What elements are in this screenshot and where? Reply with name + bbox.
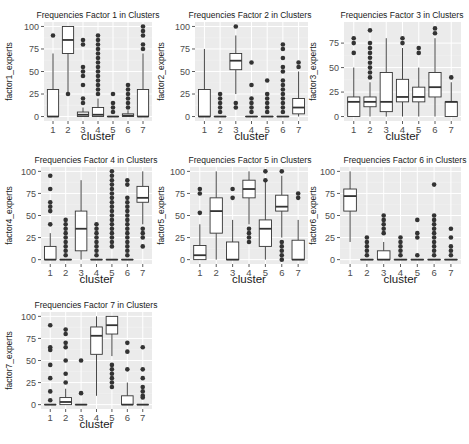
outlier-point: [63, 231, 68, 236]
boxplot-panel-factor-7: 02550751001234567Frequencies Factor 7 in…: [4, 300, 157, 430]
outlier-point: [198, 211, 203, 216]
y-tick-label: 25: [26, 233, 36, 243]
outlier-point: [110, 191, 115, 196]
outlier-point: [263, 169, 268, 174]
outlier-point: [368, 75, 373, 80]
iqr-box: [348, 97, 360, 117]
outlier-point: [141, 33, 146, 38]
outlier-point: [432, 231, 437, 236]
y-tick-label: 75: [26, 334, 36, 344]
y-tick-label: 50: [26, 211, 36, 221]
outlier-point: [110, 385, 115, 390]
outlier-point: [125, 341, 130, 346]
outlier-point: [400, 36, 405, 41]
outlier-point: [96, 92, 101, 97]
outlier-point: [281, 47, 286, 52]
outlier-point: [110, 196, 115, 201]
x-tick-label: 6: [432, 124, 437, 135]
iqr-box: [91, 327, 103, 354]
outlier-point: [398, 240, 403, 245]
outlier-point: [96, 47, 101, 52]
chart-title: Frequencies Factor 5 in Clusters: [189, 155, 312, 165]
outlier-point: [63, 253, 68, 258]
outlier-point: [96, 51, 101, 56]
outlier-point: [126, 101, 131, 106]
outlier-point: [110, 200, 115, 205]
x-axis-title: cluster: [386, 130, 420, 142]
outlier-point: [96, 87, 101, 92]
x-tick-label: 7: [448, 267, 453, 278]
outlier-point: [48, 398, 53, 403]
outlier-point: [140, 376, 145, 381]
outlier-point: [449, 226, 454, 231]
outlier-point: [398, 249, 403, 254]
outlier-point: [111, 110, 116, 115]
outlier-point: [368, 70, 373, 75]
y-tick-label: 100: [24, 22, 39, 32]
outlier-point: [433, 31, 438, 36]
outlier-point: [48, 209, 53, 214]
outlier-point: [265, 110, 270, 115]
outlier-point: [141, 29, 146, 34]
outlier-point: [351, 36, 356, 41]
outlier-point: [48, 222, 53, 227]
outlier-point: [449, 249, 454, 254]
iqr-box: [226, 242, 238, 260]
outlier-point: [368, 46, 373, 51]
outlier-point: [96, 78, 101, 83]
iqr-box: [377, 251, 390, 260]
boxplot-panel-factor-1: 02550751001234567Frequencies Factor 1 in…: [4, 10, 159, 142]
y-tick-label: 50: [175, 211, 185, 221]
outlier-point: [249, 83, 254, 88]
y-tick-label: 50: [26, 356, 36, 366]
outlier-point: [96, 33, 101, 38]
outlier-point: [96, 65, 101, 70]
outlier-point: [66, 92, 71, 97]
outlier-point: [368, 65, 373, 70]
x-tick-label: 2: [65, 124, 70, 135]
outlier-point: [63, 371, 68, 376]
outlier-point: [110, 231, 115, 236]
outlier-point: [415, 231, 420, 236]
y-tick-label: 100: [170, 167, 185, 177]
outlier-point: [381, 222, 386, 227]
outlier-point: [110, 240, 115, 245]
x-tick-label: 1: [351, 124, 356, 135]
figure: 02550751001234567Frequencies Factor 1 in…: [0, 0, 469, 444]
outlier-point: [368, 28, 373, 33]
iqr-box: [429, 72, 441, 96]
outlier-point: [63, 358, 68, 363]
outlier-point: [126, 92, 131, 97]
x-tick-label: 7: [296, 124, 301, 135]
outlier-point: [415, 218, 420, 223]
outlier-point: [110, 371, 115, 376]
outlier-point: [398, 244, 403, 249]
x-tick-label: 1: [48, 412, 53, 423]
outlier-point: [110, 380, 115, 385]
y-tick-label: 0: [34, 112, 39, 122]
outlier-point: [63, 332, 68, 337]
y-axis-title: factor7_experts: [4, 331, 14, 390]
x-axis-title: cluster: [235, 130, 269, 142]
outlier-point: [110, 226, 115, 231]
chart-title: Frequencies Factor 3 in Clusters: [341, 10, 464, 20]
x-tick-label: 6: [279, 267, 284, 278]
outlier-point: [140, 244, 145, 249]
y-tick-label: 0: [31, 255, 36, 265]
outlier-point: [81, 42, 86, 47]
outlier-point: [416, 51, 421, 56]
chart-title: Frequencies Factor 6 in Clusters: [344, 155, 467, 165]
outlier-point: [415, 253, 420, 258]
outlier-point: [398, 235, 403, 240]
outlier-point: [281, 101, 286, 106]
outlier-point: [94, 226, 99, 231]
y-tick-label: 25: [29, 89, 39, 99]
x-tick-label: 6: [125, 124, 130, 135]
outlier-point: [249, 105, 254, 110]
outlier-point: [281, 83, 286, 88]
outlier-point: [125, 367, 130, 372]
outlier-point: [79, 391, 84, 396]
outlier-point: [140, 389, 145, 394]
x-tick-label: 7: [449, 124, 454, 135]
outlier-point: [249, 110, 254, 115]
